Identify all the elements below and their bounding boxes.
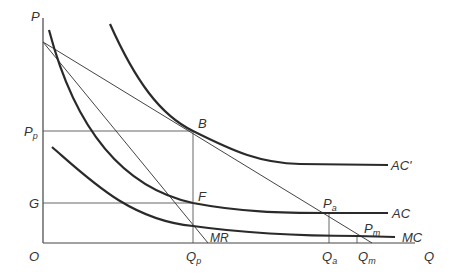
qa-tick-label: Qa (322, 250, 337, 266)
x-axis-label: Q (424, 250, 434, 263)
qm-tick-label: Qm (358, 250, 376, 266)
y-axis-label: P (31, 10, 40, 23)
ac-curve (49, 30, 388, 213)
pp-tick-label: Pp (24, 125, 38, 141)
point-b-label: B (198, 117, 207, 130)
qp-tick-label: Qp (186, 250, 201, 266)
mr-label: MR (210, 232, 229, 244)
g-tick-label: G (29, 197, 39, 210)
point-f-label: F (198, 190, 206, 203)
mc-curve (52, 147, 395, 237)
diagram-canvas (0, 0, 461, 280)
ac-prime-curve (110, 24, 388, 165)
mr-line (43, 42, 208, 243)
mc-label: MC (402, 231, 422, 244)
origin-label: O (29, 250, 39, 263)
point-pa-label: Pa (323, 197, 337, 213)
ac-prime-label: AC' (391, 159, 412, 172)
ac-label: AC (392, 207, 410, 220)
point-pm-label: Pm (364, 222, 380, 238)
